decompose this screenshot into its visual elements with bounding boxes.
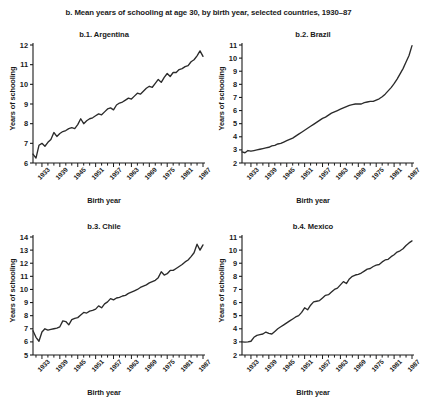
svg-text:6: 6 <box>233 106 237 115</box>
svg-text:5: 5 <box>233 311 237 320</box>
plot-argentina: 6789101112 <box>0 39 208 199</box>
svg-text:10: 10 <box>20 80 28 89</box>
svg-text:2: 2 <box>233 159 237 168</box>
svg-text:2: 2 <box>233 351 237 360</box>
panel-title-brazil: b.2. Brazil <box>209 30 417 39</box>
svg-text:8: 8 <box>233 272 237 281</box>
panel-argentina: b.1. Argentina Years of schooling Birth … <box>0 30 208 212</box>
svg-text:4: 4 <box>233 324 238 333</box>
svg-text:4: 4 <box>233 132 238 141</box>
svg-text:12: 12 <box>20 259 28 268</box>
svg-text:12: 12 <box>20 41 28 50</box>
panel-title-argentina: b.1. Argentina <box>0 30 208 39</box>
svg-text:6: 6 <box>24 337 28 346</box>
svg-text:11: 11 <box>229 233 237 242</box>
figure-title: b. Mean years of schooling at age 30, by… <box>0 8 417 18</box>
svg-text:13: 13 <box>20 246 28 255</box>
svg-text:8: 8 <box>233 80 237 89</box>
svg-text:10: 10 <box>229 54 237 63</box>
svg-text:9: 9 <box>233 67 237 76</box>
svg-text:3: 3 <box>233 337 237 346</box>
svg-text:14: 14 <box>20 233 29 242</box>
plot-mexico: 234567891011 <box>209 231 417 391</box>
svg-text:8: 8 <box>24 119 28 128</box>
svg-text:11: 11 <box>229 41 237 50</box>
svg-text:11: 11 <box>20 272 28 281</box>
svg-text:5: 5 <box>24 351 28 360</box>
svg-text:7: 7 <box>233 93 237 102</box>
panel-title-mexico: b.4. Mexico <box>209 222 417 231</box>
panel-brazil: b.2. Brazil Years of schooling Birth yea… <box>209 30 417 212</box>
svg-text:3: 3 <box>233 145 237 154</box>
svg-text:9: 9 <box>24 298 28 307</box>
svg-text:11: 11 <box>20 60 28 69</box>
svg-text:9: 9 <box>233 259 237 268</box>
svg-text:9: 9 <box>24 100 28 109</box>
svg-text:7: 7 <box>233 285 237 294</box>
svg-text:6: 6 <box>24 159 28 168</box>
panel-title-chile: b.3. Chile <box>0 222 208 231</box>
svg-text:6: 6 <box>233 298 237 307</box>
svg-text:7: 7 <box>24 324 28 333</box>
svg-text:10: 10 <box>20 285 28 294</box>
svg-text:5: 5 <box>233 119 237 128</box>
panel-chile: b.3. Chile Years of schooling Birth year… <box>0 222 208 404</box>
panel-mexico: b.4. Mexico Years of schooling Birth yea… <box>209 222 417 404</box>
svg-text:7: 7 <box>24 139 28 148</box>
plot-brazil: 234567891011 <box>209 39 417 199</box>
svg-text:8: 8 <box>24 311 28 320</box>
plot-chile: 567891011121314 <box>0 231 208 391</box>
svg-text:10: 10 <box>229 246 237 255</box>
